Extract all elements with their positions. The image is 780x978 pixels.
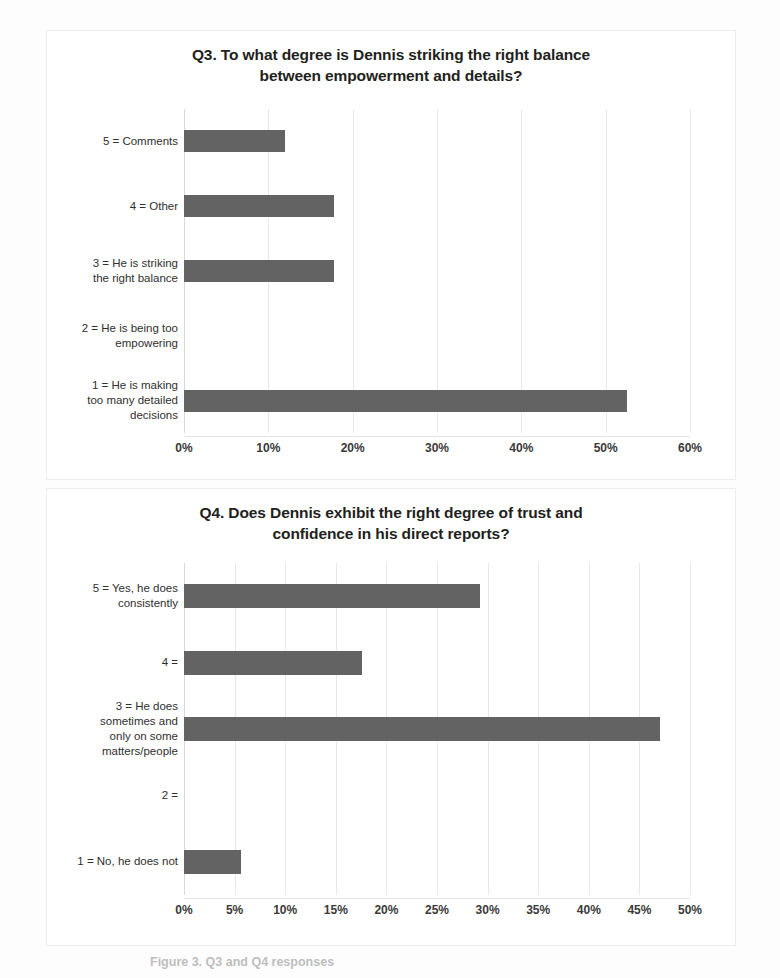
x-tick-label: 0% [175, 903, 192, 917]
bar [184, 584, 480, 608]
bar [184, 717, 660, 741]
x-tick-label: 30% [476, 903, 500, 917]
chart-card-q3: Q3. To what degree is Dennis striking th… [46, 30, 736, 480]
bar [184, 195, 334, 217]
category-label: 1 = No, he does not [46, 854, 184, 869]
category-label: 5 = Comments [46, 134, 184, 149]
bar-row: 5 = Comments [184, 109, 690, 174]
category-label: 3 = He is striking the right balance [46, 256, 184, 286]
chart-title-q3-line2: between empowerment and details? [107, 66, 675, 87]
bar-row: 2 = He is being too empowering [184, 303, 690, 368]
x-tick-label: 20% [374, 903, 398, 917]
x-tick-label: 45% [627, 903, 651, 917]
bar-rows-q3: 1 = He is making too many detailed decis… [184, 109, 690, 433]
chart-title-q4-line2: confidence in his direct reports? [107, 524, 675, 545]
x-tick-label: 10% [273, 903, 297, 917]
bar-row: 4 = [184, 629, 690, 695]
x-tick-label: 15% [324, 903, 348, 917]
x-tick-label: 0% [175, 441, 192, 455]
gridline-q3-60 [690, 109, 691, 433]
figure-caption: Figure 3. Q3 and Q4 responses [150, 955, 570, 977]
chart-title-q3: Q3. To what degree is Dennis striking th… [47, 31, 735, 87]
x-axis-q4: 0%5%10%15%20%25%30%35%40%45%50% [184, 899, 690, 927]
x-tick-label: 30% [425, 441, 449, 455]
bar-row: 3 = He is striking the right balance [184, 239, 690, 304]
x-tick-label: 40% [577, 903, 601, 917]
chart-title-q4-line1: Q4. Does Dennis exhibit the right degree… [107, 503, 675, 524]
bar-row: 5 = Yes, he does consistently [184, 563, 690, 629]
x-tick-label: 5% [226, 903, 243, 917]
category-label: 5 = Yes, he does consistently [46, 581, 184, 611]
x-axis-q3: 0%10%20%30%40%50%60% [184, 437, 690, 465]
chart-title-q4: Q4. Does Dennis exhibit the right degree… [47, 489, 735, 545]
bar [184, 130, 285, 152]
bar-row: 2 = [184, 762, 690, 828]
category-label: 4 = Other [46, 199, 184, 214]
x-tick-label: 10% [256, 441, 280, 455]
document-page: Q3. To what degree is Dennis striking th… [0, 0, 780, 978]
bar [184, 850, 241, 874]
bar [184, 651, 362, 675]
plot-area-q4: 1 = No, he does not2 =3 = He does someti… [47, 563, 735, 895]
bar-row: 1 = He is making too many detailed decis… [184, 368, 690, 433]
category-label: 3 = He does sometimes and only on some m… [46, 699, 184, 760]
bar [184, 390, 627, 412]
x-tick-label: 50% [594, 441, 618, 455]
chart-card-q4: Q4. Does Dennis exhibit the right degree… [46, 488, 736, 946]
category-label: 1 = He is making too many detailed decis… [46, 378, 184, 424]
x-tick-label: 50% [678, 903, 702, 917]
bar-row: 1 = No, he does not [184, 829, 690, 895]
plot-area-q3: 1 = He is making too many detailed decis… [47, 109, 735, 433]
bar-row: 3 = He does sometimes and only on some m… [184, 696, 690, 762]
bar [184, 260, 334, 282]
x-tick-label: 35% [526, 903, 550, 917]
category-label: 2 = He is being too empowering [46, 321, 184, 351]
x-tick-label: 60% [678, 441, 702, 455]
bar-row: 4 = Other [184, 174, 690, 239]
category-label: 4 = [46, 655, 184, 670]
x-tick-label: 25% [425, 903, 449, 917]
x-tick-label: 40% [509, 441, 533, 455]
x-tick-label: 20% [341, 441, 365, 455]
category-label: 2 = [46, 788, 184, 803]
chart-title-q3-line1: Q3. To what degree is Dennis striking th… [107, 45, 675, 66]
bar-rows-q4: 1 = No, he does not2 =3 = He does someti… [184, 563, 690, 895]
gridline-q4-50 [690, 563, 691, 895]
